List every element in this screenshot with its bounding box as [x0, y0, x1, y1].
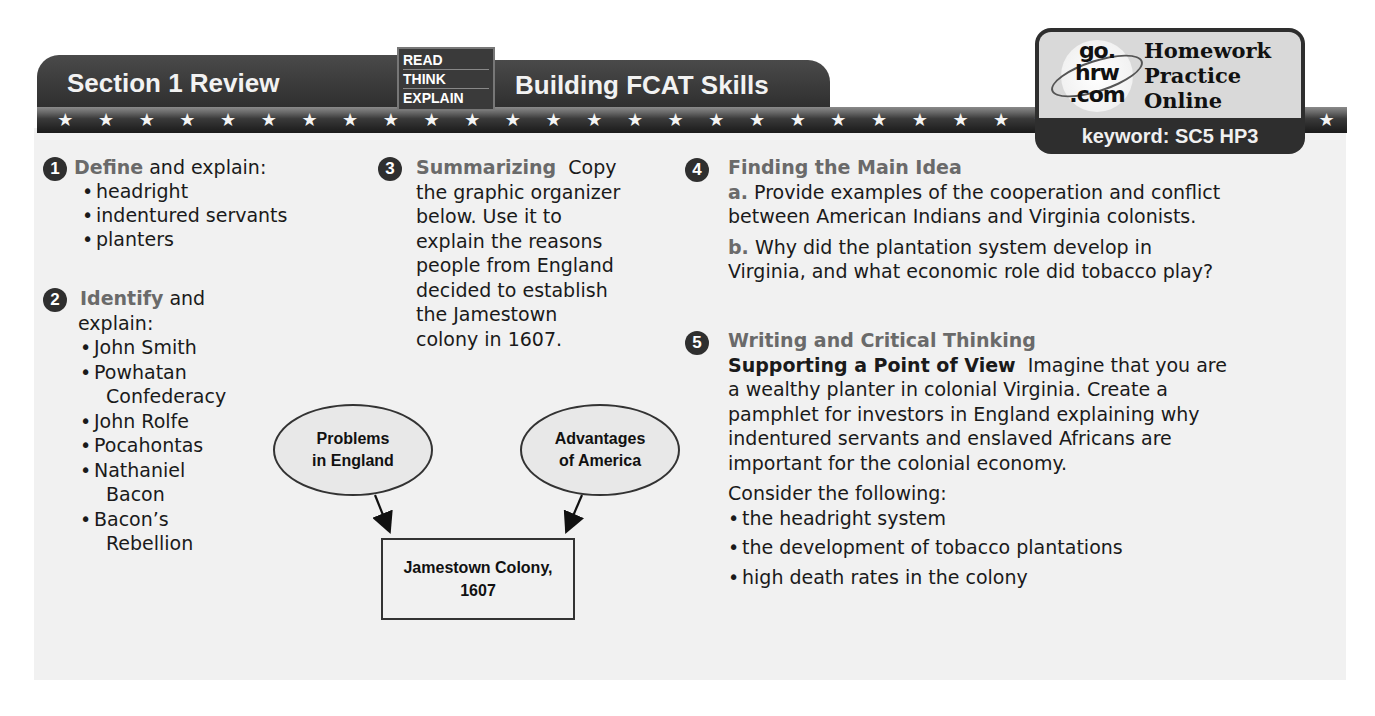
diagram-oval-advantages: Advantagesof America — [520, 404, 680, 496]
list-item: the development of tobacco plantations — [728, 535, 1227, 560]
list-item: the headright system — [728, 506, 1227, 531]
question-4: Finding the Main Idea a. Provide example… — [728, 155, 1220, 284]
question-5: Writing and Critical Thinking Supporting… — [728, 328, 1227, 589]
diagram-oval-problems: Problemsin England — [273, 404, 433, 496]
q5-subheading: Supporting a Point of View — [728, 354, 1016, 376]
question-number-4: 4 — [685, 158, 709, 182]
question-number-5: 5 — [685, 331, 709, 355]
q5-consider-list: the headright system the development of … — [728, 506, 1227, 590]
q4-heading: Finding the Main Idea — [728, 155, 1220, 180]
q5-heading: Writing and Critical Thinking — [728, 328, 1227, 353]
diagram-box-jamestown: Jamestown Colony,1607 — [381, 538, 575, 620]
list-item: high death rates in the colony — [728, 565, 1227, 590]
